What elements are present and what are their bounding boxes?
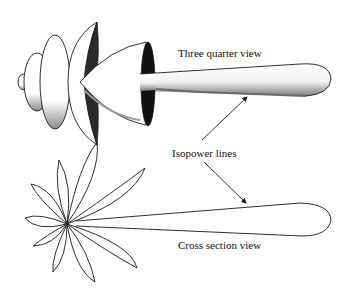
petal xyxy=(67,142,97,224)
side-lobe-2 xyxy=(40,35,70,129)
three-quarter-view-label: Three quarter view xyxy=(178,48,262,59)
petal xyxy=(67,168,145,224)
cross-section-view xyxy=(25,142,331,282)
main-lobe-3d xyxy=(140,64,331,96)
petal xyxy=(25,216,67,227)
arrow-to-cross-section xyxy=(204,162,246,203)
main-lobe-2d xyxy=(76,203,331,236)
isopower-lines-label: Isopower lines xyxy=(172,148,236,159)
arrow-to-three-quarter xyxy=(202,97,247,140)
three-quarter-view xyxy=(18,22,331,145)
cross-section-view-label: Cross section view xyxy=(178,240,261,251)
